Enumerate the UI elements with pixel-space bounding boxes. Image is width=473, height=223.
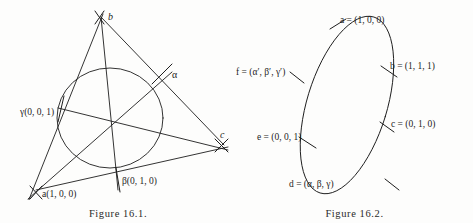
figure-page: b c a(1, 0, 0) α β(0, 1, 0) γ(0, 0, 1) F… bbox=[0, 0, 473, 223]
figure-16-2: a = (1, 0, 0) b = (1, 1, 1) c = (0, 1, 0… bbox=[236, 0, 473, 223]
figure-16-1-drawing bbox=[0, 0, 236, 200]
vertex-label-c: c bbox=[220, 130, 224, 140]
point-label-b: b = (1, 1, 1) bbox=[390, 62, 435, 72]
point-label-c: c = (0, 1, 0) bbox=[391, 120, 435, 130]
point-label-e: e = (0, 0, 1) bbox=[257, 133, 301, 143]
tick-mark-point-d bbox=[385, 179, 399, 190]
cevian-b-beta bbox=[101, 17, 118, 190]
inscribed-circle bbox=[57, 68, 163, 168]
point-label-d: d = (α, β, γ) bbox=[289, 180, 334, 190]
figure-16-1-caption: Figure 16.1. bbox=[0, 208, 236, 219]
figure-16-1: b c a(1, 0, 0) α β(0, 1, 0) γ(0, 0, 1) F… bbox=[0, 0, 236, 223]
tick-mark-point-e bbox=[299, 137, 316, 148]
tick-mark-point-f bbox=[290, 72, 304, 83]
vertex-label-a: a(1, 0, 0) bbox=[42, 190, 76, 200]
point-label-alpha: α bbox=[172, 70, 177, 80]
figure-16-2-caption: Figure 16.2. bbox=[236, 208, 473, 219]
tick-mark-c bbox=[215, 139, 228, 152]
point-label-beta: β(0, 1, 0) bbox=[122, 177, 157, 187]
conic-ellipse bbox=[282, 5, 412, 200]
cevian-c-gamma bbox=[58, 108, 228, 150]
point-label-gamma: γ(0, 0, 1) bbox=[20, 108, 54, 118]
point-label-f: f = (α′, β′, γ′) bbox=[236, 68, 285, 78]
vertex-label-b: b bbox=[108, 12, 113, 22]
figure-16-2-drawing bbox=[236, 0, 473, 200]
point-label-a: a = (1, 0, 0) bbox=[340, 16, 384, 26]
